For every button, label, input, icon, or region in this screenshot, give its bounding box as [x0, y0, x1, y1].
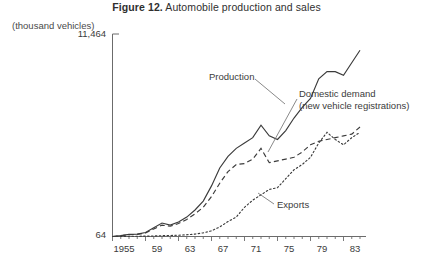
series-line-domestic-demand: [113, 127, 361, 237]
leader-line-domestic-demand: [268, 99, 297, 152]
series-line-production: [113, 50, 361, 236]
chart-plot-area: [0, 0, 433, 271]
leader-line-production: [255, 79, 285, 104]
x-axis-ticks: [113, 237, 361, 242]
leader-lines-group: [255, 79, 297, 204]
axes-group: [113, 34, 367, 241]
figure-container: Figure 12. Automobile production and sal…: [0, 0, 433, 271]
series-group: [113, 50, 361, 236]
leader-line-exports: [258, 193, 274, 204]
